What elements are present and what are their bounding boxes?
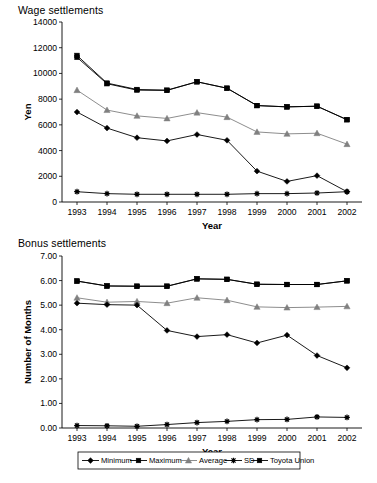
legend-marker: [231, 458, 237, 464]
data-point: [285, 282, 290, 287]
data-point: [284, 191, 290, 197]
y-tick-label: 6.00: [40, 276, 57, 286]
chart-legend: MinimumMaximumAverageSDToyota Union: [78, 452, 314, 469]
data-point: [344, 141, 350, 147]
data-point: [135, 284, 140, 289]
x-tick-label: 2002: [337, 207, 356, 217]
data-point: [194, 334, 200, 340]
data-point: [165, 284, 170, 289]
x-tick-label: 2000: [277, 433, 296, 443]
x-tick-label: 2002: [337, 433, 356, 443]
data-point: [74, 300, 80, 306]
axis-lines: [62, 256, 362, 428]
data-point: [345, 279, 350, 284]
y-tick-label: 1.00: [40, 398, 57, 408]
x-tick-label: 1995: [127, 433, 146, 443]
data-point: [164, 422, 170, 428]
data-point: [74, 295, 80, 301]
x-tick-label: 1995: [127, 207, 146, 217]
data-point: [195, 79, 200, 84]
data-point: [134, 423, 140, 429]
data-point: [104, 107, 110, 113]
legend-label: Minimum: [101, 456, 132, 465]
data-point: [195, 277, 200, 282]
data-point: [284, 332, 290, 338]
legend-marker: [257, 458, 262, 463]
x-tick-label: 1993: [67, 433, 86, 443]
data-point: [104, 125, 110, 131]
y-tick-label: 5.00: [40, 300, 57, 310]
y-axis-label: Yen: [22, 103, 33, 120]
legend-marker: [136, 458, 141, 463]
x-tick-label: 1997: [187, 433, 206, 443]
series-minimum: [74, 300, 350, 370]
data-point: [74, 423, 80, 429]
data-point: [314, 173, 320, 179]
data-point: [165, 88, 170, 93]
data-point: [314, 353, 320, 359]
y-tick-label: 14000: [33, 17, 57, 27]
y-tick-label: 10000: [33, 68, 57, 78]
series-sd: [74, 189, 350, 197]
data-point: [105, 81, 110, 86]
data-point: [254, 340, 260, 346]
x-tick-label: 2001: [307, 433, 326, 443]
data-point: [225, 277, 230, 282]
legend-label: Average: [199, 456, 227, 465]
series-sd: [74, 414, 350, 429]
wage-settlements-plot: 0200040006000800010000120001400019931994…: [22, 17, 362, 231]
y-tick-label: 3.00: [40, 349, 57, 359]
data-point: [75, 279, 80, 284]
x-tick-label: 2000: [277, 207, 296, 217]
x-tick-label: 1999: [247, 207, 266, 217]
x-tick-label: 1997: [187, 207, 206, 217]
data-point: [194, 420, 200, 426]
data-point: [164, 191, 170, 197]
x-tick-label: 1998: [217, 433, 236, 443]
y-tick-label: 2000: [38, 171, 57, 181]
x-tick-label: 1998: [217, 207, 236, 217]
data-point: [255, 103, 260, 108]
data-point: [224, 332, 230, 338]
data-point: [315, 104, 320, 109]
data-point: [74, 109, 80, 115]
data-point: [225, 86, 230, 91]
x-tick-label: 1999: [247, 433, 266, 443]
data-point: [194, 191, 200, 197]
data-point: [314, 414, 320, 420]
data-point: [135, 87, 140, 92]
data-point: [344, 365, 350, 371]
data-point: [75, 53, 80, 58]
data-point: [254, 417, 260, 423]
x-tick-label: 1994: [97, 207, 116, 217]
y-tick-label: 2.00: [40, 374, 57, 384]
data-point: [284, 417, 290, 423]
data-point: [255, 282, 260, 287]
data-point: [285, 105, 290, 110]
data-point: [254, 191, 260, 197]
x-axis-label: Year: [202, 220, 222, 231]
data-point: [344, 189, 350, 195]
data-point: [74, 87, 80, 93]
y-tick-label: 4000: [38, 146, 57, 156]
figure-wage-and-bonus-settlements: Wage settlements Bonus settlements 02000…: [0, 0, 377, 483]
data-point: [344, 415, 350, 421]
y-tick-label: 4.00: [40, 325, 57, 335]
bonus-settlements-plot: 0.001.002.003.004.005.006.007.0019931994…: [22, 251, 362, 457]
data-point: [224, 419, 230, 425]
x-tick-label: 1994: [97, 433, 116, 443]
series-minimum: [74, 109, 350, 194]
x-tick-label: 1996: [157, 433, 176, 443]
series-average: [74, 295, 350, 310]
charts-canvas: 0200040006000800010000120001400019931994…: [0, 0, 377, 483]
data-point: [74, 189, 80, 195]
y-tick-label: 0.00: [40, 423, 57, 433]
series-maximum: [75, 277, 350, 289]
y-axis-label: Number of Months: [22, 300, 33, 384]
x-tick-label: 1996: [157, 207, 176, 217]
data-point: [224, 191, 230, 197]
data-point: [345, 117, 350, 122]
x-tick-label: 1993: [67, 207, 86, 217]
data-point: [104, 191, 110, 197]
y-tick-label: 12000: [33, 43, 57, 53]
